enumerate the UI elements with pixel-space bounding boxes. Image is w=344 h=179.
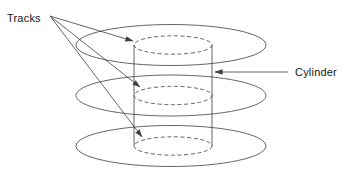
platter-outlines: [76, 25, 266, 167]
cylinder-walls: [134, 45, 212, 146]
track-middle: [134, 86, 212, 104]
platter-middle: [76, 75, 266, 116]
cylinder-diagram: Tracks Cylinder: [0, 0, 344, 179]
platter-bottom: [76, 126, 266, 167]
leader-tracks-top: [50, 16, 133, 41]
diagram-canvas: Tracks Cylinder: [0, 0, 344, 179]
leader-tracks-bottom: [50, 16, 142, 137]
cylinder-label: Cylinder: [295, 66, 337, 78]
track-top: [134, 36, 212, 54]
track-bottom: [134, 137, 212, 155]
tracks-label: Tracks: [7, 12, 41, 24]
track-outlines: [134, 36, 212, 155]
